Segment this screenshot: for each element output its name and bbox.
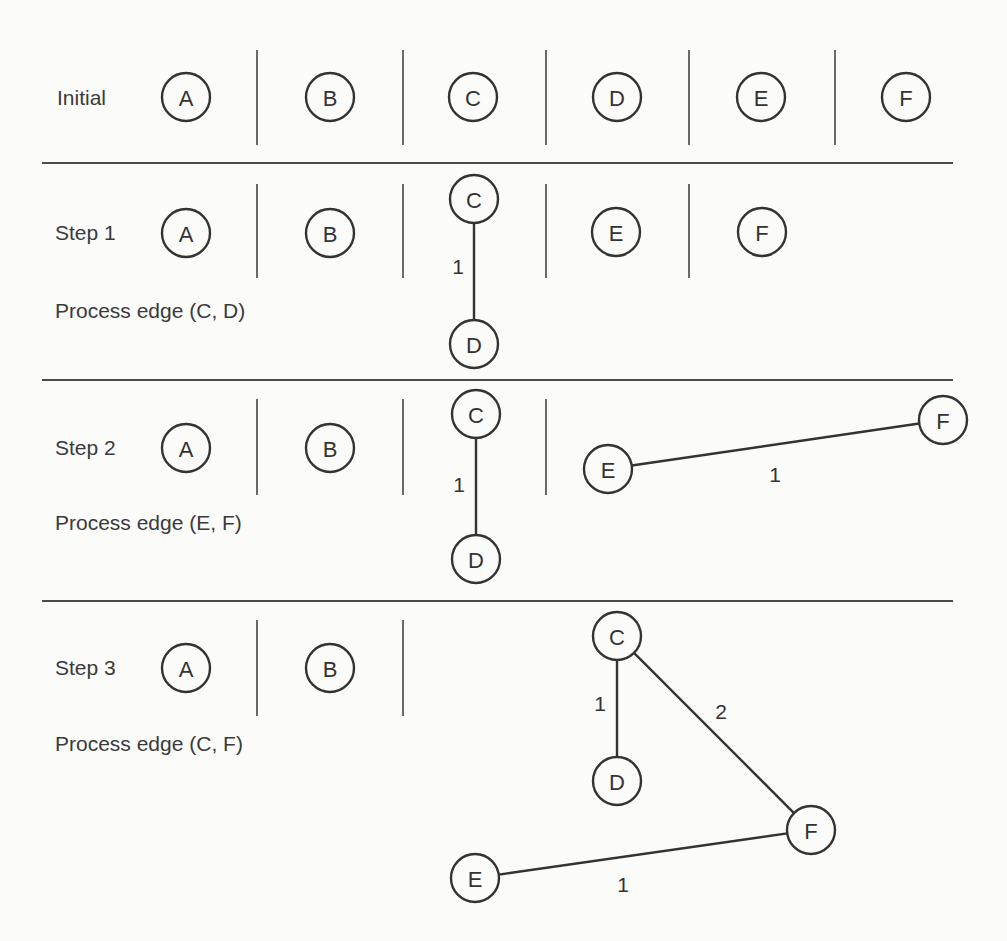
node-B: B (306, 73, 354, 121)
node-label: A (179, 86, 194, 111)
node-label: C (466, 188, 482, 213)
node-label: C (465, 86, 481, 111)
node-label: A (179, 222, 194, 247)
node-D: D (450, 320, 498, 368)
process-edge-caption: Process edge (C, F) (55, 732, 243, 755)
node-E: E (451, 854, 499, 902)
node-label: D (609, 86, 625, 111)
node-D: D (452, 535, 500, 583)
node-label: B (323, 86, 338, 111)
row-label: Step 1 (55, 221, 116, 244)
node-label: E (468, 867, 483, 892)
edge-weight-label: 1 (617, 873, 629, 896)
node-label: A (179, 437, 194, 462)
process-edge-caption: Process edge (C, D) (55, 299, 245, 322)
node-C: C (449, 73, 497, 121)
node-F: F (882, 73, 930, 121)
node-C: C (452, 390, 500, 438)
kruskal-diagram: InitialABCDEFStep 1Process edge (C, D)1A… (0, 0, 1007, 941)
node-B: B (306, 424, 354, 472)
edge-weight-label: 1 (452, 255, 464, 278)
node-label: F (804, 819, 817, 844)
node-label: F (755, 221, 768, 246)
edge-E-F (632, 423, 920, 465)
node-F: F (919, 396, 967, 444)
row-initial: InitialABCDEF (57, 50, 930, 145)
edge-weight-label: 2 (715, 700, 727, 723)
node-B: B (306, 644, 354, 692)
row-step-2: Step 2Process edge (E, F)11ABCDEF (55, 390, 967, 583)
node-label: C (468, 403, 484, 428)
node-label: D (468, 548, 484, 573)
node-F: F (738, 208, 786, 256)
node-D: D (593, 73, 641, 121)
node-label: D (609, 770, 625, 795)
row-label: Initial (57, 86, 106, 109)
node-C: C (450, 175, 498, 223)
node-E: E (737, 73, 785, 121)
edge-weight-label: 1 (594, 692, 606, 715)
edge-weight-label: 1 (453, 473, 465, 496)
node-label: E (601, 458, 616, 483)
node-label: D (466, 333, 482, 358)
process-edge-caption: Process edge (E, F) (55, 511, 242, 534)
node-F: F (787, 806, 835, 854)
node-A: A (162, 424, 210, 472)
row-step-1: Step 1Process edge (C, D)1ABCDEF (55, 175, 786, 368)
node-label: E (609, 221, 624, 246)
node-A: A (162, 644, 210, 692)
edge-E-F (499, 833, 787, 874)
node-C: C (593, 612, 641, 660)
node-label: B (323, 437, 338, 462)
node-A: A (162, 209, 210, 257)
node-E: E (584, 445, 632, 493)
node-label: B (323, 222, 338, 247)
row-step-3: Step 3Process edge (C, F)121ABCDFE (55, 612, 835, 902)
row-label: Step 2 (55, 436, 116, 459)
node-label: C (609, 625, 625, 650)
node-label: F (936, 409, 949, 434)
edge-C-F (634, 653, 794, 813)
node-A: A (162, 73, 210, 121)
row-label: Step 3 (55, 656, 116, 679)
edge-weight-label: 1 (769, 463, 781, 486)
node-label: B (323, 657, 338, 682)
node-label: F (899, 86, 912, 111)
diagram-canvas: InitialABCDEFStep 1Process edge (C, D)1A… (0, 0, 1007, 941)
node-E: E (592, 208, 640, 256)
node-label: E (754, 86, 769, 111)
node-B: B (306, 209, 354, 257)
node-label: A (179, 657, 194, 682)
node-D: D (593, 757, 641, 805)
step-rows: InitialABCDEFStep 1Process edge (C, D)1A… (55, 50, 967, 902)
